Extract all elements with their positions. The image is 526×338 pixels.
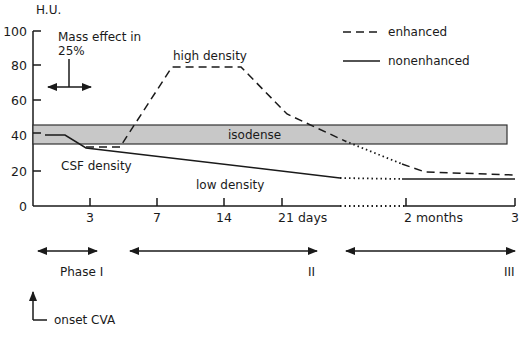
x-tick-3-months: 3 [511, 210, 519, 225]
high-density-label: high density [173, 49, 247, 63]
phase2-label: II [308, 265, 315, 279]
isodense-label: isodense [228, 128, 281, 142]
y-tick-0: 0 [19, 199, 27, 214]
y-tick-100: 100 [3, 24, 27, 39]
x-tick-7: 7 [153, 210, 161, 225]
phase-indicators: Phase I II III [38, 251, 515, 279]
x-tick-3: 3 [86, 210, 94, 225]
mass-effect-label-line2: 25% [58, 44, 85, 58]
x-tick-14: 14 [216, 210, 232, 225]
y-tick-60: 60 [11, 93, 27, 108]
y-tick-20: 20 [11, 164, 27, 179]
onset-cva-label: onset CVA [54, 313, 116, 327]
phase3-label: III [504, 265, 515, 279]
x-tick-21-days: 21 days [278, 210, 327, 225]
x-tick-2-months: 2 months [404, 210, 463, 225]
legend-enhanced: enhanced [388, 25, 447, 39]
legend: enhanced nonenhanced [343, 25, 470, 68]
y-axis: 100 80 60 40 20 0 [3, 24, 41, 214]
y-tick-80: 80 [11, 58, 27, 73]
csf-density-label: CSF density [61, 159, 132, 173]
ct-density-chart: H.U. 100 80 60 40 20 0 isodense 3 7 14 2… [0, 0, 526, 338]
onset-marker: onset CVA [33, 292, 116, 327]
mass-effect-label-line1: Mass effect in [58, 30, 141, 44]
series-enhanced [86, 67, 515, 175]
phase1-label: Phase I [60, 265, 103, 279]
y-tick-40: 40 [11, 128, 27, 143]
low-density-label: low density [196, 178, 264, 192]
legend-nonenhanced: nonenhanced [388, 54, 470, 68]
x-axis: 3 7 14 21 days 2 months 3 [33, 198, 519, 225]
y-axis-unit: H.U. [36, 3, 61, 17]
